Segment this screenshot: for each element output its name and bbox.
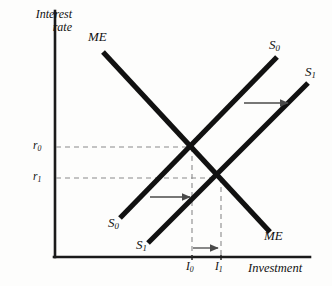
curve-label-s1-top: S1: [305, 65, 316, 81]
x-tick-label-i0: I0: [186, 260, 194, 275]
y-tick-label-r0: r0: [33, 139, 41, 154]
x-tick-label-i1: I1: [215, 260, 223, 275]
curve-label-s0-top-sub: 0: [276, 43, 280, 53]
curves-group: [103, 52, 308, 243]
curve-label-s1-top-sub: 1: [312, 70, 316, 80]
y-axis-title-line1: Interest: [36, 7, 72, 21]
x-axis-title: Investment: [248, 262, 302, 276]
curve-label-s0-top: S0: [269, 38, 280, 54]
y-axis-title-line2: rate: [53, 20, 72, 34]
curve-label-s1-bottom: S1: [136, 238, 147, 254]
y-tick-label-r1: r1: [33, 170, 41, 185]
curve-label-s0-bottom-sub: 0: [115, 221, 119, 231]
curve-label-me-bottom: ME: [264, 229, 283, 243]
x-tick-label-i0-sub: 0: [190, 265, 194, 274]
curve-label-s0-bottom: S0: [108, 216, 119, 232]
figure-page: Interest rate Investment ME S0 S1 S0 S1 …: [0, 0, 332, 286]
y-axis-title: Interest rate: [6, 8, 72, 34]
y-tick-label-r1-sub: 1: [37, 175, 41, 184]
curve-label-s1-bottom-sub: 1: [143, 243, 147, 253]
investment-saving-diagram: [0, 0, 332, 286]
curve-label-me-top: ME: [88, 30, 107, 44]
x-tick-label-i1-sub: 1: [219, 265, 223, 274]
y-tick-label-r0-sub: 0: [37, 144, 41, 153]
